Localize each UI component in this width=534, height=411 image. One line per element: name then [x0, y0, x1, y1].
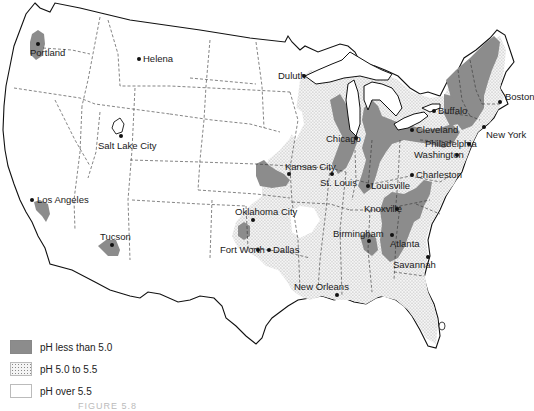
- label-savannah: Savannah: [393, 259, 436, 270]
- label-los-angeles: Los Angeles: [37, 194, 89, 205]
- label-new-orleans: New Orleans: [294, 281, 349, 292]
- label-fort-worth: Fort Worth: [220, 244, 265, 255]
- swatch-stippled: [10, 362, 32, 376]
- label-boston: Boston: [505, 91, 534, 102]
- label-birmingham: Birmingham: [333, 228, 384, 239]
- label-st-louis: St. Louis: [320, 177, 357, 188]
- map-legend: pH less than 5.0 pH 5.0 to 5.5 pH over 5…: [10, 336, 112, 402]
- legend-label: pH less than 5.0: [40, 342, 112, 353]
- label-knoxville: Knoxville: [364, 203, 402, 214]
- legend-item-ph-over-5-5: pH over 5.5: [10, 380, 112, 402]
- label-helena: Helena: [143, 53, 174, 64]
- swatch-white: [10, 384, 32, 398]
- label-portland: Portland: [30, 47, 65, 58]
- swatch-dark-gray: [10, 340, 32, 354]
- label-new-york: New York: [486, 129, 526, 140]
- label-charleston: Charleston: [416, 169, 462, 180]
- legend-item-ph-less-than-5-0: pH less than 5.0: [10, 336, 112, 358]
- label-atlanta: Atlanta: [390, 238, 420, 249]
- label-salt-lake-city: Salt Lake City: [98, 140, 157, 151]
- label-oklahoma-city: Oklahoma City: [235, 206, 298, 217]
- figure-caption: FIGURE 5.8: [78, 401, 137, 411]
- label-chicago: Chicago: [326, 133, 361, 144]
- label-dallas: Dallas: [273, 244, 300, 255]
- legend-label: pH over 5.5: [40, 386, 92, 397]
- lake-okeechobee: [439, 322, 445, 330]
- label-philadelphia: Philadelphia: [425, 138, 477, 149]
- label-kansas-city: Kansas City: [285, 161, 336, 172]
- legend-item-ph-5-0-to-5-5: pH 5.0 to 5.5: [10, 358, 112, 380]
- label-cleveland: Cleveland: [416, 124, 458, 135]
- label-duluth: Duluth: [278, 70, 305, 81]
- legend-label: pH 5.0 to 5.5: [40, 364, 97, 375]
- label-buffalo: Buffalo: [438, 105, 467, 116]
- label-louisville: Louisville: [371, 180, 410, 191]
- label-washington: Washington: [414, 149, 464, 160]
- label-tucson: Tucson: [100, 231, 131, 242]
